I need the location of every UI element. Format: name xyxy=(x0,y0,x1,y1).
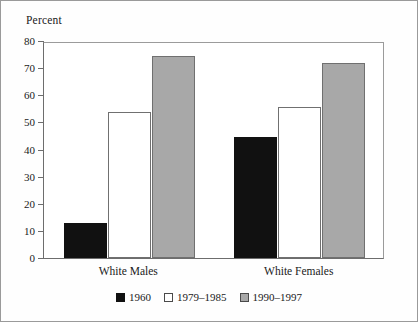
y-axis-tick-mark xyxy=(38,204,44,205)
chart-legend: 19601979–19851990–1997 xyxy=(1,291,417,303)
y-axis-tick-label: 0 xyxy=(30,252,36,264)
y-axis-tick-mark xyxy=(38,68,44,69)
legend-item: 1990–1997 xyxy=(240,291,303,303)
legend-swatch-icon xyxy=(116,293,125,302)
legend-item: 1979–1985 xyxy=(164,291,227,303)
y-axis-tick-label: 50 xyxy=(24,116,35,128)
legend-item-label: 1979–1985 xyxy=(177,291,227,303)
y-axis-tick-label: 20 xyxy=(24,198,35,210)
y-axis-tick-mark xyxy=(38,177,44,178)
y-axis-tick-label: 60 xyxy=(24,89,35,101)
legend-item: 1960 xyxy=(116,291,151,303)
chart-figure: Percent 01020304050607080 White MalesWhi… xyxy=(0,0,418,322)
bar xyxy=(152,56,195,258)
y-axis-tick-mark xyxy=(38,150,44,151)
legend-item-label: 1960 xyxy=(129,291,151,303)
y-axis-title: Percent xyxy=(26,14,62,26)
legend-item-label: 1990–1997 xyxy=(253,291,303,303)
bar xyxy=(234,137,277,258)
y-axis-tick-mark xyxy=(38,41,44,42)
bar xyxy=(278,107,321,258)
legend-swatch-icon xyxy=(164,293,173,302)
bar xyxy=(108,112,151,258)
y-axis-tick-label: 10 xyxy=(24,225,35,237)
y-axis-tick-mark xyxy=(38,95,44,96)
x-axis-category-label: White Females xyxy=(264,265,333,277)
y-axis-tick-label: 70 xyxy=(24,62,35,74)
bar xyxy=(322,63,365,258)
y-axis-tick-label: 30 xyxy=(24,171,35,183)
bar xyxy=(64,223,107,258)
x-axis-category-label: White Males xyxy=(99,265,158,277)
plot-area: 01020304050607080 xyxy=(43,42,384,259)
y-axis-tick-mark xyxy=(38,258,44,259)
y-axis-tick-label: 80 xyxy=(24,35,35,47)
legend-swatch-icon xyxy=(240,293,249,302)
y-axis-tick-mark xyxy=(38,231,44,232)
y-axis-tick-mark xyxy=(38,122,44,123)
y-axis-tick-label: 40 xyxy=(24,144,35,156)
